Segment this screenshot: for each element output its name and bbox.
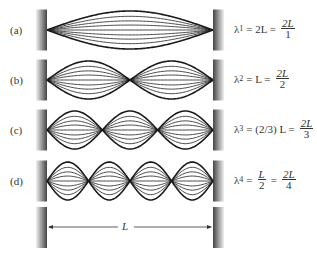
length-indicator — [36, 207, 224, 248]
wavelength-formula-2: λ2 = L = 2L2 — [234, 68, 291, 89]
fraction: 2L3 — [300, 118, 314, 139]
fraction: L2 — [258, 169, 266, 190]
subscript: 3 — [239, 124, 243, 133]
wavelength-formula-4: λ4 = L2 = 2L4 — [234, 169, 298, 190]
left-wall — [36, 60, 47, 101]
row-label-a: (a) — [10, 24, 22, 36]
left-wall — [36, 10, 47, 51]
row-label-d: (d) — [10, 175, 23, 187]
subscript: 2 — [239, 74, 243, 83]
row-label-c: (c) — [10, 124, 22, 136]
wavelength-formula-3: λ3 = (2/3) L = 2L3 — [234, 118, 315, 139]
left-wall — [36, 110, 47, 151]
subscript: 4 — [239, 175, 243, 184]
right-wall — [213, 110, 224, 151]
denominator: 4 — [285, 180, 293, 190]
left-wall — [36, 207, 47, 248]
right-wall — [213, 207, 224, 248]
right-wall — [213, 10, 224, 51]
formula-middle: = L = — [246, 73, 270, 85]
right-wall — [213, 60, 224, 101]
fraction: 2L1 — [281, 18, 295, 39]
fraction: 2L2 — [276, 68, 290, 89]
denominator: 3 — [303, 129, 311, 139]
row-label-b: (b) — [10, 74, 23, 86]
denominator: 2 — [258, 180, 266, 190]
denominator: 2 — [279, 79, 287, 89]
denominator: 1 — [284, 29, 292, 39]
fraction: 2L4 — [282, 169, 296, 190]
right-wall — [213, 161, 224, 202]
left-wall — [36, 161, 47, 202]
subscript: 1 — [239, 24, 243, 33]
length-label: L — [122, 220, 128, 232]
formula-middle: = (2/3) L = — [246, 123, 294, 135]
arrowhead-left-icon — [48, 225, 53, 229]
formula-middle: = 2L = — [246, 23, 276, 35]
wavelength-formula-1: λ1 = 2L = 2L1 — [234, 18, 297, 39]
arrowhead-right-icon — [207, 225, 212, 229]
